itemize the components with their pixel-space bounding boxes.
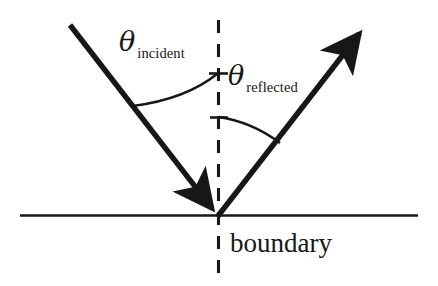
reflection-diagram: θincident θreflected boundary xyxy=(0,0,438,286)
incident-angle-arc xyxy=(133,74,217,106)
reflected-angle-arc xyxy=(219,117,280,143)
reflected-ray xyxy=(218,34,360,217)
diagram-canvas xyxy=(0,0,438,286)
incident-ray xyxy=(70,25,212,209)
